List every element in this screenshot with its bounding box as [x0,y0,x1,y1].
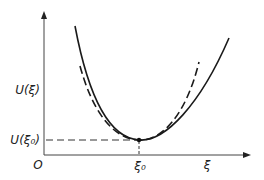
y-axis-label: U(ξ) [15,83,40,97]
x-axis-arrow-icon [243,152,251,158]
dashed-curve [80,62,199,140]
minimum-point [137,138,141,142]
y-axis-arrow-icon [41,11,47,19]
origin-label: O [33,158,42,172]
x-axis-label: ξ [203,158,211,172]
y-tick-label: U(ξ₀) [10,133,40,147]
solid-curve [75,26,229,140]
x-tick-label: ξ₀ [133,159,146,173]
potential-diagram: U(ξ) U(ξ₀) O ξ₀ ξ [0,0,264,180]
